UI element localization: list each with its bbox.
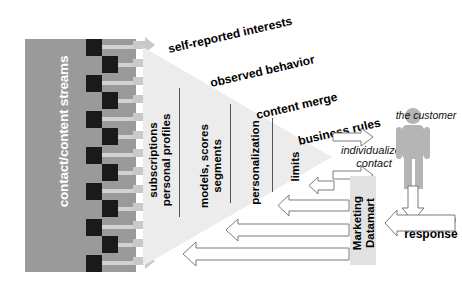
feedback-arrow-icon: [226, 219, 349, 241]
feedback-arrow-icon: [183, 242, 349, 266]
diagram-canvas: contact/content streams: [0, 0, 462, 285]
feedback-arrow-icon: [309, 177, 334, 194]
feedback-arrow-icon: [278, 195, 349, 216]
datamart-feedback-arrows: [0, 0, 462, 285]
